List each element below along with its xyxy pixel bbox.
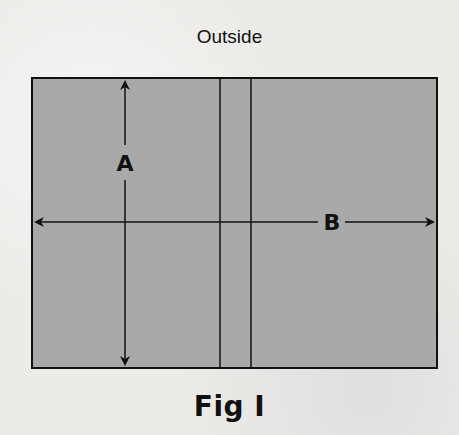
dimension-b-label: B — [324, 210, 341, 235]
dimension-a-label: A — [116, 151, 133, 176]
figure-caption: Fig I — [0, 390, 459, 423]
diagram-canvas: A B — [0, 0, 459, 435]
panel-rectangle — [32, 78, 437, 368]
